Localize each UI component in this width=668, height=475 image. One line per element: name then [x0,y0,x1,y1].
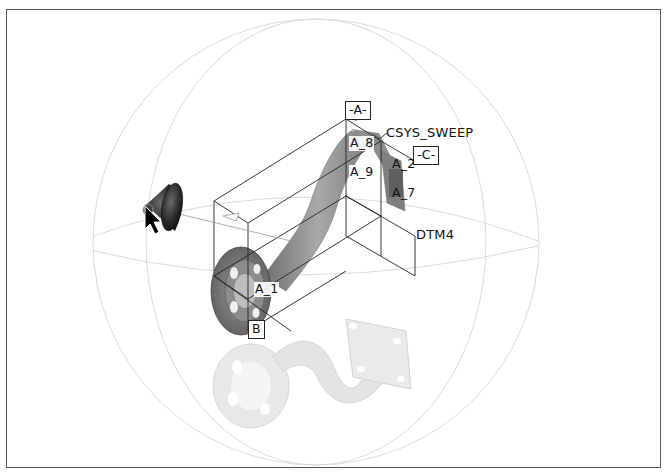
datum-axis-label-a9[interactable]: A_9 [349,165,374,180]
datum-axis-label-a8[interactable]: A_8 [349,136,374,151]
part-reflection [213,319,411,428]
swept-part[interactable] [211,129,405,335]
datum-plane-tag-b[interactable]: B [248,320,265,339]
datum-plane-label-dtm4[interactable]: DTM4 [416,228,454,241]
model-scene[interactable] [7,10,660,467]
datum-axis-label-a1[interactable]: A_1 [254,282,279,297]
datum-plane-tag-c[interactable]: -C- [413,146,439,165]
datum-axis-label-a7[interactable]: A_7 [392,187,415,200]
csys-label[interactable]: CSYS_SWEEP [386,126,473,139]
graphics-viewport[interactable]: -A- CSYS_SWEEP A_8 -C- A_9 A_2 A_7 DTM4 … [6,9,661,468]
datum-axis-label-a2[interactable]: A_2 [392,158,415,171]
datum-plane-tag-a[interactable]: -A- [345,101,371,120]
